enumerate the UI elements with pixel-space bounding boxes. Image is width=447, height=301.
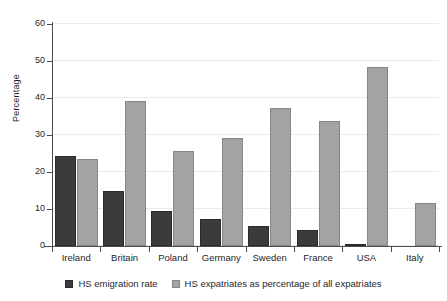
- bar-ireland-series1: [55, 156, 76, 246]
- y-tick-label: 30: [5, 129, 45, 139]
- legend-swatch-icon: [172, 280, 180, 288]
- x-label-poland: Poland: [158, 252, 188, 263]
- bar-france-series2: [319, 121, 340, 246]
- x-tick-mark: [246, 247, 247, 252]
- y-tick-mark: [47, 209, 52, 210]
- x-label-ireland: Ireland: [62, 252, 91, 263]
- bar-group: [197, 24, 245, 246]
- legend-label: HS expatriates as percentage of all expa…: [185, 278, 382, 289]
- plot-area: [52, 24, 439, 246]
- y-tick-mark: [47, 24, 52, 25]
- bar-poland-series2: [173, 151, 194, 246]
- y-tick-mark: [47, 135, 52, 136]
- x-axis-line: [44, 246, 442, 247]
- legend-label: HS emigration rate: [78, 278, 157, 289]
- legend-swatch-icon: [65, 280, 73, 288]
- y-tick-label: 10: [5, 203, 45, 213]
- chart-legend: HS emigration rateHS expatriates as perc…: [0, 278, 447, 289]
- y-tick-label: 20: [5, 166, 45, 176]
- x-tick-mark: [294, 247, 295, 252]
- x-tick-mark: [391, 247, 392, 252]
- bar-britain-series2: [125, 101, 146, 246]
- bar-italy-series2: [415, 203, 436, 246]
- x-label-italy: Italy: [406, 252, 423, 263]
- x-tick-mark: [100, 247, 101, 252]
- bar-france-series1: [297, 230, 318, 246]
- y-tick-mark: [47, 61, 52, 62]
- bar-sweden-series1: [248, 226, 269, 246]
- x-label-sweden: Sweden: [253, 252, 287, 263]
- x-label-britain: Britain: [111, 252, 138, 263]
- bar-group: [149, 24, 197, 246]
- x-tick-mark: [197, 247, 198, 252]
- legend-item-1: HS emigration rate: [65, 278, 157, 289]
- bar-britain-series1: [103, 191, 124, 246]
- bar-group: [246, 24, 294, 246]
- bar-chart: Percentage 0102030405060 IrelandBritainP…: [0, 0, 447, 301]
- bar-group: [342, 24, 390, 246]
- bar-germany-series2: [222, 138, 243, 246]
- y-tick-mark: [47, 98, 52, 99]
- bar-germany-series1: [200, 219, 221, 246]
- bar-ireland-series2: [77, 159, 98, 246]
- y-tick-label: 0: [5, 240, 45, 250]
- bar-group: [52, 24, 100, 246]
- x-tick-mark: [149, 247, 150, 252]
- x-label-germany: Germany: [202, 252, 241, 263]
- legend-item-2: HS expatriates as percentage of all expa…: [172, 278, 382, 289]
- x-label-usa: USA: [357, 252, 377, 263]
- x-label-france: France: [303, 252, 333, 263]
- y-tick-label: 50: [5, 55, 45, 65]
- y-tick-mark: [47, 172, 52, 173]
- bar-group: [294, 24, 342, 246]
- y-tick-label: 40: [5, 92, 45, 102]
- x-tick-mark: [439, 247, 440, 252]
- bar-usa-series2: [367, 67, 388, 246]
- bar-group: [391, 24, 439, 246]
- bar-sweden-series2: [270, 108, 291, 246]
- bar-poland-series1: [151, 211, 172, 246]
- bar-group: [100, 24, 148, 246]
- x-tick-mark: [342, 247, 343, 252]
- y-tick-label: 60: [5, 18, 45, 28]
- x-tick-mark: [52, 247, 53, 252]
- y-axis-line: [52, 22, 53, 248]
